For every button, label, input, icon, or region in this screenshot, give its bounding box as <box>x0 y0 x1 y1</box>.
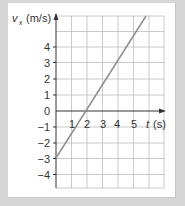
grid <box>56 16 164 188</box>
svg-text:−1: −1 <box>37 121 50 133</box>
y-axis-arrow-icon <box>54 13 59 20</box>
velocity-line <box>56 16 146 158</box>
svg-text:3: 3 <box>100 118 106 130</box>
svg-text:3: 3 <box>44 57 50 69</box>
svg-text:4: 4 <box>44 41 50 53</box>
y-axis-label-sub: x <box>18 19 23 26</box>
x-axis-arrow-icon <box>159 109 166 114</box>
svg-text:1: 1 <box>69 118 75 130</box>
y-axis-label-unit: (m/s) <box>26 12 51 24</box>
svg-text:0: 0 <box>44 105 50 117</box>
y-tick-labels: 4 3 2 1 0 −1 −2 −3 −4 <box>37 41 50 181</box>
x-tick-labels: 1 2 3 4 5 <box>69 118 137 130</box>
svg-text:4: 4 <box>114 118 120 130</box>
velocity-time-chart: v x (m/s) 4 3 2 1 0 −1 −2 −3 −4 1 2 3 4 … <box>0 0 185 206</box>
svg-text:2: 2 <box>44 73 50 85</box>
y-axis-label-var: v <box>12 12 19 24</box>
svg-text:−3: −3 <box>37 153 50 165</box>
svg-text:2: 2 <box>84 118 90 130</box>
x-axis-label-unit: (s) <box>153 118 166 130</box>
svg-text:−2: −2 <box>37 137 50 149</box>
svg-text:5: 5 <box>131 118 137 130</box>
axes <box>53 14 164 188</box>
svg-text:−4: −4 <box>37 169 50 181</box>
svg-text:1: 1 <box>44 89 50 101</box>
